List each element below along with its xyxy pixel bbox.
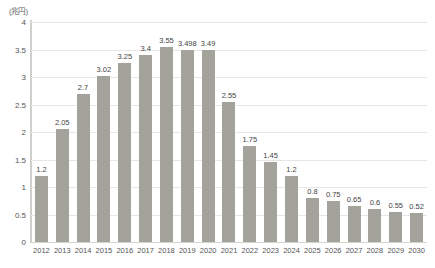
bar-value-label: 0.55 <box>388 202 403 210</box>
bar[interactable] <box>348 206 361 242</box>
bar-column[interactable]: 3.25 <box>114 22 135 242</box>
bar-column[interactable]: 0.75 <box>323 22 344 242</box>
bar-column[interactable]: 3.498 <box>177 22 198 242</box>
x-tick-label: 2025 <box>302 246 323 255</box>
bar-column[interactable]: 1.2 <box>31 22 52 242</box>
x-tick-label: 2020 <box>198 246 219 255</box>
bar-column[interactable]: 2.55 <box>219 22 240 242</box>
y-tick-label: 1.5 <box>15 155 26 164</box>
bar-column[interactable]: 1.2 <box>281 22 302 242</box>
bar[interactable] <box>139 55 152 242</box>
bar-value-label: 0.75 <box>326 191 341 199</box>
x-tick-label: 2028 <box>364 246 385 255</box>
y-tick-label: 4 <box>22 18 26 27</box>
bar-column[interactable]: 0.55 <box>385 22 406 242</box>
y-tick-label: 2.5 <box>15 100 26 109</box>
bar[interactable] <box>56 129 69 242</box>
x-tick-label: 2012 <box>31 246 52 255</box>
bar[interactable] <box>35 176 48 242</box>
bar-value-label: 1.2 <box>36 166 46 174</box>
plot-area: 1.22.052.73.023.253.43.553.4983.492.551.… <box>31 22 427 242</box>
bar-column[interactable]: 0.65 <box>344 22 365 242</box>
x-tick-label: 2015 <box>94 246 115 255</box>
bar[interactable] <box>285 176 298 242</box>
y-axis-tick-labels: 00.511.522.533.54 <box>0 0 26 268</box>
bar[interactable] <box>181 50 194 242</box>
x-tick-label: 2022 <box>239 246 260 255</box>
bar[interactable] <box>389 212 402 242</box>
bar-column[interactable]: 1.75 <box>239 22 260 242</box>
x-tick-label: 2027 <box>344 246 365 255</box>
bar-value-label: 3.02 <box>97 66 112 74</box>
x-tick-label: 2014 <box>73 246 94 255</box>
x-tick-label: 2021 <box>219 246 240 255</box>
bar[interactable] <box>264 162 277 242</box>
bar-value-label: 1.75 <box>243 136 258 144</box>
y-tick-label: 1 <box>22 183 26 192</box>
bar-value-label: 3.498 <box>178 40 197 48</box>
x-tick-label: 2029 <box>385 246 406 255</box>
bar-column[interactable]: 2.7 <box>73 22 94 242</box>
bar-column[interactable]: 3.4 <box>135 22 156 242</box>
bar-value-label: 0.6 <box>370 199 380 207</box>
bar[interactable] <box>160 47 173 242</box>
bar[interactable] <box>97 76 110 242</box>
x-tick-label: 2013 <box>52 246 73 255</box>
gridline <box>31 242 427 243</box>
y-tick-label: 3.5 <box>15 45 26 54</box>
bar[interactable] <box>118 63 131 242</box>
bar[interactable] <box>243 146 256 242</box>
bar-value-label: 1.45 <box>263 152 278 160</box>
bar-value-label: 0.8 <box>307 188 317 196</box>
x-tick-label: 2030 <box>406 246 427 255</box>
x-tick-label: 2017 <box>135 246 156 255</box>
bar-column[interactable]: 2.05 <box>52 22 73 242</box>
bar-column[interactable]: 0.52 <box>406 22 427 242</box>
bar-value-label: 0.52 <box>409 203 424 211</box>
bar[interactable] <box>306 198 319 242</box>
bar-column[interactable]: 3.49 <box>198 22 219 242</box>
y-tick-label: 0 <box>22 238 26 247</box>
x-tick-label: 2019 <box>177 246 198 255</box>
x-tick-label: 2023 <box>260 246 281 255</box>
y-tick-label: 3 <box>22 73 26 82</box>
bar-column[interactable]: 1.45 <box>260 22 281 242</box>
bar-column[interactable]: 3.55 <box>156 22 177 242</box>
bar-value-label: 3.25 <box>117 53 132 61</box>
bar[interactable] <box>327 201 340 242</box>
y-tick-label: 2 <box>22 128 26 137</box>
bar[interactable] <box>368 209 381 242</box>
bar-value-label: 3.55 <box>159 37 174 45</box>
x-tick-label: 2016 <box>114 246 135 255</box>
bar-chart: (兆円) 00.511.522.533.54 1.22.052.73.023.2… <box>0 0 435 268</box>
y-tick-label: 0.5 <box>15 210 26 219</box>
bar[interactable] <box>410 213 423 242</box>
x-tick-label: 2018 <box>156 246 177 255</box>
bar-value-label: 3.4 <box>140 45 150 53</box>
x-tick-label: 2026 <box>323 246 344 255</box>
bar-value-label: 2.7 <box>78 84 88 92</box>
bar-value-label: 3.49 <box>201 40 216 48</box>
bar-value-label: 0.65 <box>347 196 362 204</box>
bar[interactable] <box>77 94 90 243</box>
bar-column[interactable]: 3.02 <box>94 22 115 242</box>
bar-column[interactable]: 0.8 <box>302 22 323 242</box>
bar-value-label: 2.55 <box>222 92 237 100</box>
bar-value-label: 2.05 <box>55 119 70 127</box>
x-axis-tick-labels: 2012201320142015201620172018201920202021… <box>31 246 427 264</box>
bar[interactable] <box>222 102 235 242</box>
bar-value-label: 1.2 <box>286 166 296 174</box>
bar-column[interactable]: 0.6 <box>364 22 385 242</box>
bar[interactable] <box>202 50 215 242</box>
x-tick-label: 2024 <box>281 246 302 255</box>
